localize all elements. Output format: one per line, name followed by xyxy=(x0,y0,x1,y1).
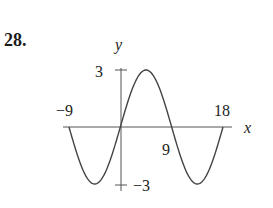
sine-graph: y x 3 −3 −9 9 18 xyxy=(0,0,273,208)
y-axis-label: y xyxy=(113,36,123,54)
x-mid-label: 9 xyxy=(162,141,170,158)
y-max-label: 3 xyxy=(95,63,103,80)
x-max-label: 18 xyxy=(214,102,230,119)
x-min-label: −9 xyxy=(56,102,73,119)
x-axis-label: x xyxy=(243,119,251,136)
y-min-label: −3 xyxy=(133,177,150,194)
